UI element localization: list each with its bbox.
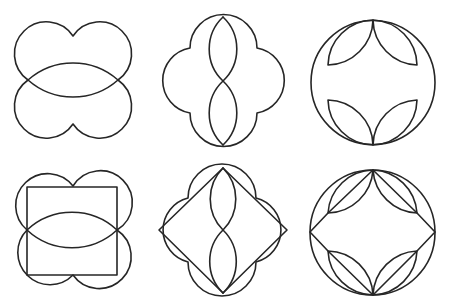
figure-canvas: [0, 0, 451, 308]
lens-left-arcs: [209, 17, 223, 145]
figure-4-double-lobe-square: [16, 171, 133, 289]
lower-cloud-shape: [14, 63, 131, 138]
inscribed-square: [27, 187, 117, 275]
leaf-bottom-left: [328, 100, 373, 145]
lower-cloud-shape: [18, 212, 131, 288]
upper-cloud-shape: [14, 22, 131, 97]
leaf-top-left: [328, 20, 373, 65]
lens-right-arcs: [223, 17, 237, 145]
figure-6-circle-leaves-lines: [310, 170, 435, 295]
figure-1-double-lobe-lens: [14, 22, 131, 138]
leaf-top-right: [373, 20, 417, 65]
outer-circle: [310, 170, 435, 295]
lens-right-arcs: [223, 168, 236, 293]
figure-3-circle-leaves: [311, 20, 435, 145]
leaf-bottom-right: [373, 100, 417, 145]
lens-left-arcs: [210, 168, 223, 293]
figure-5-quatrefoil-diamond: [159, 164, 287, 296]
outer-circle: [311, 20, 435, 144]
upper-cloud-shape: [16, 171, 133, 248]
figure-2-quatrefoil-lenses: [163, 15, 285, 147]
